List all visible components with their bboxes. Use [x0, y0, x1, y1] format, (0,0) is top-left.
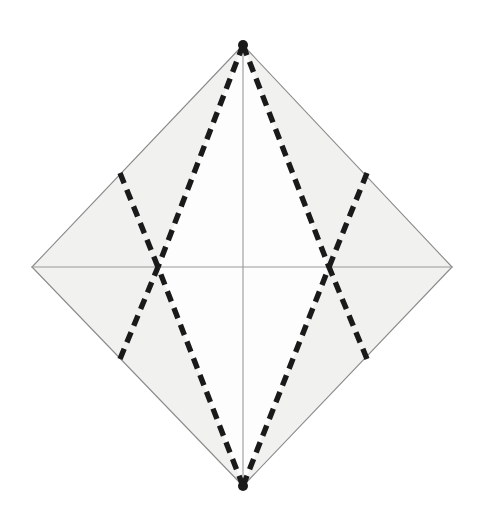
marker-top-apex	[238, 40, 248, 50]
marker-bottom-apex	[238, 481, 248, 491]
diamond-net-svg	[0, 0, 486, 516]
figure-canvas: Octahedron / Diamond Net Line Drawing A …	[0, 0, 486, 516]
